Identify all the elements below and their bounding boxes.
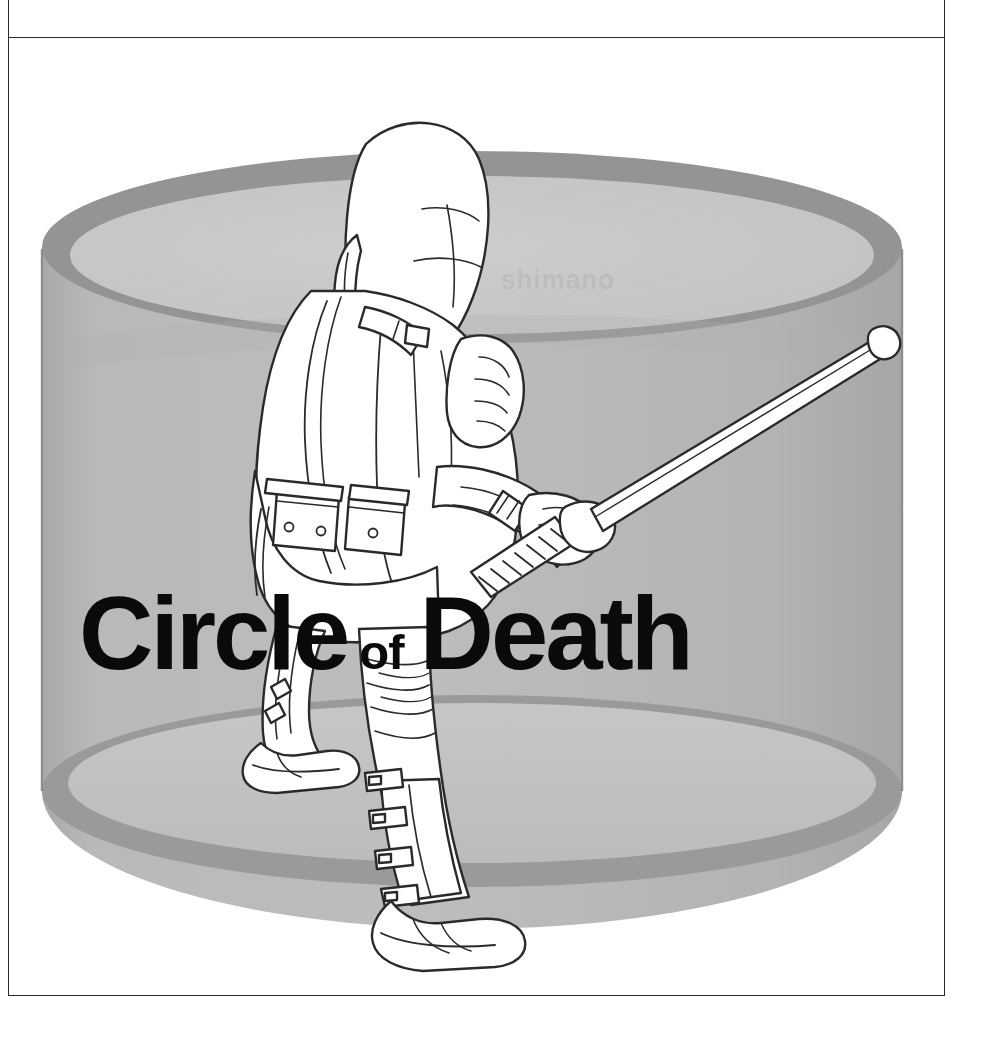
header-caption xyxy=(8,0,945,1)
page-root: shimano Circle of Death xyxy=(0,0,1003,1047)
rear-arm-fist xyxy=(447,335,524,447)
circle-of-death-illustration xyxy=(9,39,944,995)
chest-buckle xyxy=(405,325,429,347)
illustration-plate: shimano Circle of Death xyxy=(9,39,944,995)
jacket-pocket-right xyxy=(345,497,405,555)
cylinder-floor xyxy=(68,703,876,863)
sword-tip xyxy=(868,326,900,359)
header-strip xyxy=(8,0,945,38)
